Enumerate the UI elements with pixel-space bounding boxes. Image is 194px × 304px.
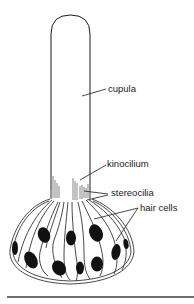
divider-rule xyxy=(7,296,194,298)
label-stereocilia: stereocilia xyxy=(111,187,154,198)
stereocilia-bundle xyxy=(51,176,90,200)
cupula xyxy=(51,15,90,190)
hair-cell-diagram: cupula kinocilium stereocilia hair cells xyxy=(0,0,194,304)
cell-nuclei xyxy=(12,222,129,278)
label-kinocilium: kinocilium xyxy=(107,158,149,169)
label-cupula: cupula xyxy=(108,83,137,94)
label-hair-cells: hair cells xyxy=(140,202,178,213)
